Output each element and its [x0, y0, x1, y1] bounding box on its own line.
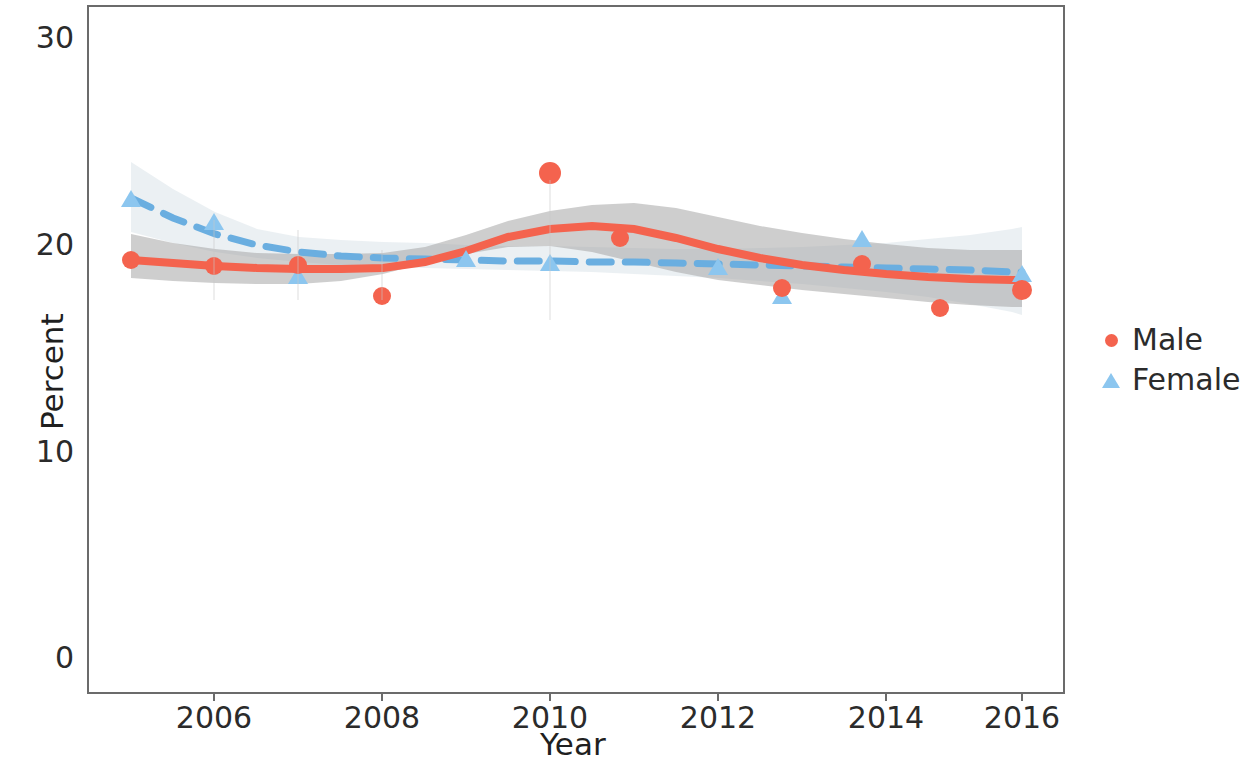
- legend-label-female: Female: [1132, 365, 1240, 395]
- triangle-marker-icon: [1098, 367, 1124, 393]
- axes-frame: [88, 6, 1064, 693]
- legend-item-female[interactable]: Female: [1098, 360, 1248, 400]
- circle-marker-icon: [1098, 327, 1124, 353]
- chart-legend: Male Female: [1098, 320, 1248, 400]
- plot-area: [0, 0, 1248, 766]
- legend-item-male[interactable]: Male: [1098, 320, 1248, 360]
- chart-figure: Percent Year 30 20 10 0 2006 2008 2010 2…: [0, 0, 1248, 766]
- legend-label-male: Male: [1132, 325, 1203, 355]
- x-axis-ticks: [214, 693, 1022, 701]
